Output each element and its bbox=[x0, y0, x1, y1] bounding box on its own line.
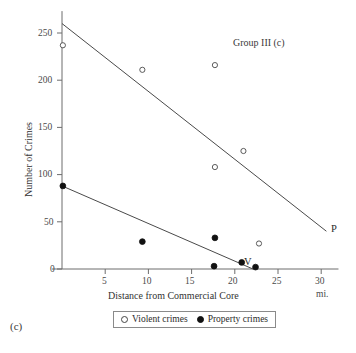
legend-label-violent: Violent crimes bbox=[132, 314, 188, 324]
property-trendline bbox=[62, 186, 253, 269]
violent-data-point bbox=[256, 241, 261, 246]
violent-data-point bbox=[60, 43, 65, 48]
property-data-point bbox=[60, 183, 66, 189]
violent-trendline-tag: V bbox=[244, 257, 252, 268]
legend-item-property: Property crimes bbox=[197, 314, 268, 324]
ytick-label: 50 bbox=[44, 218, 54, 228]
property-data-point bbox=[139, 239, 145, 245]
violent-trendline bbox=[62, 24, 326, 232]
xtick-label: 25 bbox=[272, 277, 282, 287]
xtick-label: 30 bbox=[315, 277, 325, 287]
panel-tag: (c) bbox=[10, 321, 22, 332]
property-trendline-tag: P bbox=[331, 224, 337, 235]
ytick-label: 100 bbox=[38, 170, 52, 180]
chart-group-title: Group III (c) bbox=[233, 38, 285, 48]
xtick-label: 15 bbox=[185, 277, 195, 287]
property-data-point bbox=[211, 263, 217, 269]
legend-item-violent: Violent crimes bbox=[121, 314, 188, 324]
x-axis-unit-label: mi. bbox=[316, 290, 328, 300]
axes-group bbox=[52, 11, 338, 274]
ytick-label: 250 bbox=[38, 29, 52, 39]
property-data-point bbox=[253, 264, 259, 270]
x-axis-title: Distance from Commercial Core bbox=[108, 291, 239, 301]
violent-data-point bbox=[212, 62, 217, 67]
open-circle-icon bbox=[121, 316, 128, 323]
violent-data-point bbox=[212, 164, 217, 169]
violent-data-point bbox=[140, 67, 145, 72]
ytick-label: 150 bbox=[38, 123, 52, 133]
ytick-label: 200 bbox=[38, 76, 52, 86]
property-data-point bbox=[212, 235, 218, 241]
ytick-label: 0 bbox=[50, 265, 55, 275]
xtick-label: 10 bbox=[142, 277, 152, 287]
filled-circle-icon bbox=[197, 316, 204, 323]
chart-legend: Violent crimes Property crimes bbox=[113, 311, 276, 328]
figure-panel: 250 200 150 100 50 0 5 10 15 20 25 30 Di… bbox=[0, 0, 356, 353]
y-axis-title: Number of Crimes bbox=[24, 122, 34, 197]
violent-data-point bbox=[241, 148, 246, 153]
legend-label-property: Property crimes bbox=[208, 314, 268, 324]
xtick-label: 20 bbox=[228, 277, 238, 287]
trendlines-group bbox=[62, 24, 326, 269]
xtick-label: 5 bbox=[102, 277, 107, 287]
